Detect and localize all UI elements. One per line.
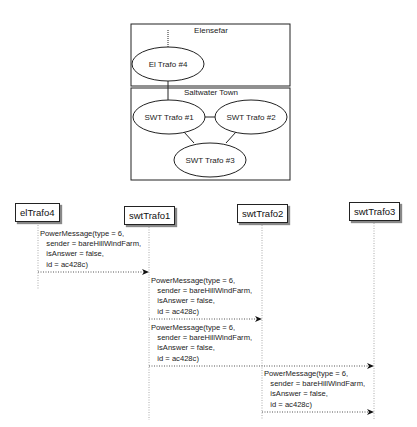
node-swt-trafo-3-label: SWT Trafo #3	[185, 156, 235, 165]
message-label-1: PowerMessage(type = 6, sender = bareHill…	[40, 229, 141, 270]
participant-eltrafo4: elTrafo4	[15, 203, 60, 222]
message-label-4: PowerMessage(type = 6, sender = bareHill…	[264, 369, 365, 410]
region-elensefar-label: Elensefar	[194, 26, 228, 35]
message-label-2: PowerMessage(type = 6, sender = bareHill…	[151, 276, 252, 317]
node-el-trafo-4-label: El Trafo #4	[149, 60, 188, 69]
participant-swttrafo2: swtTrafo2	[237, 204, 288, 223]
arrowhead-icon	[367, 363, 374, 369]
participant-swttrafo3: swtTrafo3	[349, 202, 400, 221]
region-saltwater-label: Saltwater Town	[184, 88, 238, 97]
node-swt-trafo-1-label: SWT Trafo #1	[144, 113, 194, 122]
arrowhead-icon	[255, 316, 262, 322]
message-label-3: PowerMessage(type = 6, sender = bareHill…	[151, 323, 252, 364]
participant-swttrafo1: swtTrafo1	[124, 206, 175, 225]
node-swt-trafo-2-label: SWT Trafo #2	[226, 113, 276, 122]
arrowhead-icon	[367, 409, 374, 415]
